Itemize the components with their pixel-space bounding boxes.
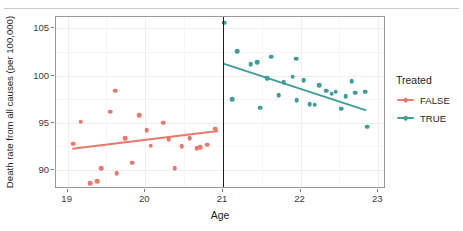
- y-tick-mark: [51, 169, 54, 170]
- data-point: [249, 62, 254, 67]
- data-point: [363, 89, 368, 94]
- data-point: [187, 136, 192, 141]
- x-tick-mark: [67, 189, 68, 192]
- data-point: [79, 120, 84, 125]
- data-point: [130, 160, 135, 165]
- legend-key-true-icon: [396, 111, 415, 125]
- x-tick-mark: [222, 189, 223, 192]
- x-tick-label: 20: [139, 193, 150, 204]
- x-axis-title: Age: [55, 209, 385, 221]
- top-divider: [4, 8, 459, 9]
- data-point: [148, 143, 153, 148]
- data-point: [339, 106, 344, 111]
- legend-label-true: TRUE: [420, 113, 446, 124]
- x-tick-mark: [377, 189, 378, 192]
- data-point: [137, 113, 142, 118]
- x-tick-label: 21: [217, 193, 228, 204]
- data-point: [161, 121, 166, 126]
- x-tick-mark: [300, 189, 301, 192]
- data-point: [258, 105, 263, 110]
- x-tick-mark: [144, 189, 145, 192]
- y-tick-mark: [51, 27, 54, 28]
- data-point: [265, 76, 270, 81]
- cutoff-line: [223, 17, 224, 187]
- chart-root: Death rate from all causes (per 100,000)…: [0, 0, 463, 231]
- legend-title: Treated: [396, 74, 462, 86]
- data-point: [123, 136, 128, 141]
- y-tick-mark: [51, 122, 54, 123]
- x-tick-label: 23: [372, 193, 383, 204]
- y-axis-title: Death rate from all causes (per 100,000): [0, 16, 18, 188]
- data-point: [312, 103, 317, 108]
- y-tick-label: 95: [25, 116, 49, 127]
- data-point: [114, 171, 119, 176]
- data-point: [353, 90, 358, 95]
- data-point: [343, 94, 348, 99]
- data-point: [179, 144, 184, 149]
- data-point: [113, 88, 118, 93]
- data-point: [95, 179, 100, 184]
- data-point: [255, 60, 260, 65]
- data-point: [173, 166, 178, 171]
- data-point: [301, 78, 306, 83]
- data-point: [198, 145, 203, 150]
- data-point: [324, 88, 329, 93]
- data-point: [71, 141, 76, 146]
- legend: Treated FALSE TRUE: [396, 74, 462, 128]
- data-point: [317, 83, 322, 88]
- y-axis-title-text: Death rate from all causes (per 100,000): [4, 16, 15, 188]
- y-tick-label: 90: [25, 164, 49, 175]
- legend-item-false[interactable]: FALSE: [396, 92, 462, 108]
- data-point: [88, 181, 93, 186]
- legend-item-true[interactable]: TRUE: [396, 110, 462, 126]
- legend-label-false: FALSE: [420, 95, 450, 106]
- data-point: [294, 56, 299, 61]
- data-point: [166, 137, 171, 142]
- data-point: [230, 97, 235, 102]
- data-point: [277, 93, 282, 98]
- data-point: [108, 109, 113, 114]
- y-tick-mark: [51, 75, 54, 76]
- data-point: [294, 98, 299, 103]
- legend-key-false-icon: [396, 93, 415, 107]
- y-tick-label: 105: [25, 22, 49, 33]
- data-point: [205, 142, 210, 147]
- regression-line: [223, 64, 366, 111]
- data-point: [99, 166, 104, 171]
- y-tick-label: 100: [25, 69, 49, 80]
- data-point: [365, 124, 370, 129]
- data-point: [333, 89, 338, 94]
- data-point: [350, 79, 355, 84]
- plot-panel: [55, 16, 385, 188]
- data-point: [145, 128, 150, 133]
- x-tick-label: 22: [294, 193, 305, 204]
- data-point: [291, 74, 296, 79]
- regression-lines: [56, 17, 384, 187]
- data-point: [281, 80, 286, 85]
- data-point: [213, 126, 218, 131]
- data-point: [269, 54, 274, 59]
- x-tick-label: 19: [61, 193, 72, 204]
- data-point: [235, 49, 240, 54]
